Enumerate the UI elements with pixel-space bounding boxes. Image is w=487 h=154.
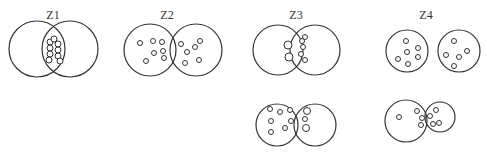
panel-label-z3: Z3 <box>289 8 302 22</box>
panel-z1 <box>9 21 98 77</box>
vesicle <box>278 110 283 115</box>
panel-label-z1: Z1 <box>46 8 59 22</box>
vesicle <box>303 117 308 122</box>
vesicle <box>197 58 202 63</box>
cell-right <box>438 30 480 72</box>
vesicle <box>283 126 288 131</box>
vesicle <box>301 45 306 50</box>
cell-right <box>170 24 222 76</box>
vesicle <box>268 107 273 112</box>
vesicle <box>397 115 402 120</box>
vesicle <box>138 41 143 46</box>
vesicle <box>193 45 198 50</box>
cell-left <box>253 25 303 75</box>
vesicle <box>161 49 166 54</box>
panel-label-z4: Z4 <box>419 8 432 22</box>
vesicle <box>444 53 449 58</box>
vesicle <box>300 39 305 44</box>
panel-z4-bottom <box>385 100 455 142</box>
vesicle <box>416 55 421 60</box>
cell-left <box>385 100 427 142</box>
panel-z3-top <box>253 25 340 75</box>
vesicle <box>404 39 409 44</box>
vesicle <box>269 119 274 124</box>
vesicle <box>183 61 188 66</box>
vesicle <box>51 36 57 42</box>
vesicle <box>416 46 421 51</box>
vesicle <box>419 123 424 128</box>
vesicle <box>198 39 203 44</box>
vesicle <box>405 50 410 55</box>
vesicle <box>269 130 274 135</box>
vesicle <box>465 49 470 54</box>
large-vesicle <box>285 53 293 61</box>
large-vesicle <box>284 41 292 49</box>
vesicle <box>289 119 294 124</box>
vesicle <box>406 62 411 67</box>
vesicle <box>288 108 293 113</box>
vesicle <box>457 55 462 60</box>
vesicle <box>46 57 52 63</box>
large-vesicle <box>304 108 311 115</box>
panel-z3-bottom <box>256 104 336 146</box>
vesicle <box>57 58 63 64</box>
panel-z4-top <box>386 30 480 72</box>
vesicle <box>55 47 61 53</box>
cell-right <box>294 104 336 146</box>
diagram-canvas: Z1 Z2 Z3 Z4 <box>0 0 487 154</box>
vesicle <box>431 122 436 127</box>
vesicle <box>420 116 425 121</box>
cell-right <box>290 25 340 75</box>
vesicle <box>160 40 165 45</box>
vesicle <box>396 57 401 62</box>
vesicle <box>437 121 442 126</box>
vesicle <box>434 108 439 113</box>
panel-label-z2: Z2 <box>160 8 173 22</box>
vesicle <box>47 45 53 51</box>
vesicle <box>144 59 149 64</box>
cell-left <box>124 24 176 76</box>
vesicle <box>299 52 304 57</box>
vesicle <box>179 42 184 47</box>
panel-z2 <box>124 24 222 76</box>
vesicle <box>152 51 157 56</box>
vesicle <box>452 64 457 69</box>
vesicle <box>303 58 308 63</box>
vesicle <box>415 109 420 114</box>
vesicle <box>162 56 167 61</box>
vesicle-cluster <box>46 36 63 64</box>
vesicle <box>47 51 53 57</box>
vesicle <box>151 39 156 44</box>
vesicle <box>452 39 457 44</box>
vesicle <box>185 50 190 55</box>
vesicle <box>428 114 433 119</box>
large-vesicle <box>303 125 310 132</box>
